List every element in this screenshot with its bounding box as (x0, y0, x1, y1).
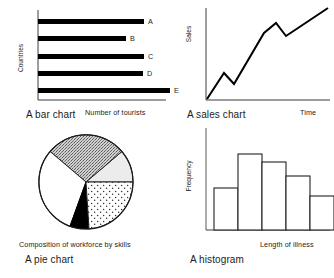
bar-chart-title: A bar chart (26, 109, 75, 120)
bar-row (38, 19, 144, 24)
bar-row (38, 54, 144, 59)
pie-chart-caption: Composition of workforce by skills (19, 240, 131, 249)
bar-category-label: C (148, 52, 153, 61)
sales-chart-title: A sales chart (187, 109, 246, 120)
histogram-bar (286, 176, 310, 230)
bar-category-label: B (130, 34, 135, 43)
pie-chart-title: A pie chart (25, 254, 73, 265)
histogram-panel: Frequency (180, 126, 330, 240)
bar-row (38, 36, 126, 41)
sales-chart-panel: Sales (180, 6, 330, 106)
histogram-x-axis-label: Length of illness (260, 240, 314, 249)
pie-chart-slices (39, 135, 133, 229)
sales-chart-y-axis-label: Sales (185, 25, 192, 42)
histogram-bar (310, 196, 334, 230)
bar-chart-y-axis-label: Countries (17, 43, 24, 72)
histogram-title: A histogram (190, 254, 244, 265)
bar-chart-x-axis-label: Number of tourists (85, 108, 146, 117)
bar-category-label: E (174, 86, 179, 95)
sales-chart-x-axis-label: Time (300, 108, 316, 117)
histogram-bar (262, 162, 286, 230)
bar-row (38, 71, 143, 76)
pie-chart-panel (18, 130, 166, 240)
figure-grid: Countries A B C D E Number of tourists A… (0, 0, 334, 278)
bar-category-label: D (147, 69, 152, 78)
pie-slice-dotted (86, 182, 133, 229)
histogram-bars (214, 154, 334, 230)
histogram-y-axis-label: Frequency (185, 160, 193, 192)
bar-row (38, 88, 170, 93)
histogram-bar (238, 154, 262, 230)
sales-chart-line (207, 8, 328, 99)
bar-chart-panel: Countries A B C D E (14, 6, 166, 106)
histogram-bar (214, 188, 238, 230)
bar-category-label: A (148, 17, 153, 26)
